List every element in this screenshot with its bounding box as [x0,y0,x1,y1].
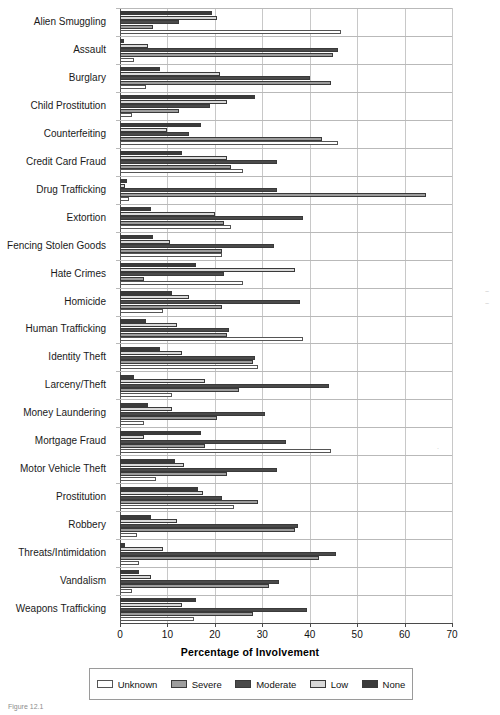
bar-severe [120,165,231,169]
bar-group [120,204,452,232]
category-label: Hate Crimes [50,268,106,279]
bar-low [120,519,177,523]
bar-low [120,16,217,20]
group-separator [116,120,452,121]
category-label: Weapons Trafficking [16,603,106,614]
legend-label: None [383,679,406,690]
bar-moderate [120,20,179,24]
group-separator [116,483,452,484]
x-tick-label: 20 [209,629,220,640]
bar-severe [120,81,331,85]
x-tick-mark [120,623,121,627]
x-axis-line [120,623,452,624]
bar-moderate [120,580,279,584]
bar-group [120,511,452,539]
group-separator [116,595,452,596]
x-tick-label: 60 [399,629,410,640]
bar-moderate [120,244,274,248]
bar-low [120,491,203,495]
bar-none [120,235,153,239]
bar-unknown [120,337,303,341]
group-separator [116,148,452,149]
bar-moderate [120,104,210,108]
category-label: Fencing Stolen Goods [7,240,106,251]
bar-moderate [120,216,303,220]
x-tick-label: 70 [446,629,457,640]
legend-item[interactable]: Unknown [97,679,158,690]
category-label: Motor Vehicle Theft [20,463,106,474]
category-label: Drug Trafficking [36,184,106,195]
category-label: Threats/Intimidation [18,547,106,558]
bar-low [120,603,182,607]
bar-group [120,595,452,623]
bar-low [120,463,184,467]
bar-moderate [120,468,277,472]
bar-none [120,263,196,267]
category-label: Homicide [64,296,106,307]
bar-severe [120,249,222,253]
category-label: Alien Smuggling [34,16,106,27]
bar-unknown [120,309,163,313]
bar-none [120,487,198,491]
bar-low [120,72,220,76]
bar-moderate [120,188,277,192]
category-label: Extortion [67,212,106,223]
category-label: Child Prostitution [30,100,106,111]
legend-label: Low [331,679,348,690]
bar-moderate [120,356,255,360]
group-separator [116,455,452,456]
group-separator [116,204,452,205]
category-label: Robbery [68,519,106,530]
x-tick-mark [262,623,263,627]
gridline-70 [452,8,453,623]
bar-low [120,212,215,216]
group-separator [116,539,452,540]
group-separator [116,316,452,317]
x-tick-label: 50 [352,629,363,640]
bar-group [120,64,452,92]
bar-low [120,351,182,355]
bar-none [120,291,172,295]
legend-item[interactable]: Low [310,679,348,690]
x-tick-mark [357,623,358,627]
category-label: Identity Theft [48,351,106,362]
bar-none [120,515,151,519]
x-tick-mark [452,623,453,627]
bar-group [120,232,452,260]
chart-figure: Alien SmugglingAssaultBurglaryChild Pros… [0,0,500,715]
bar-moderate [120,384,329,388]
bar-unknown [120,225,231,229]
edge-artifact-bottom: ~ [485,300,489,307]
group-separator [116,92,452,93]
group-separator [116,288,452,289]
bar-moderate [120,328,229,332]
category-label: Larceny/Theft [45,379,106,390]
bar-unknown [120,449,331,453]
bar-group [120,483,452,511]
bar-group [120,399,452,427]
category-label: Mortgage Fraud [35,435,106,446]
legend-item[interactable]: Severe [171,679,222,690]
bar-severe [120,333,227,337]
bar-severe [120,556,319,560]
plot-area: Alien SmugglingAssaultBurglaryChild Pros… [0,0,500,640]
bar-low [120,44,148,48]
category-label: Money Laundering [23,407,106,418]
legend-item[interactable]: Moderate [235,679,296,690]
bar-none [120,151,182,155]
bar-group [120,371,452,399]
bar-unknown [120,113,132,117]
bar-moderate [120,132,189,136]
bar-none [120,347,160,351]
bar-unknown [120,58,134,62]
legend-swatch-low [310,680,326,688]
bar-group [120,260,452,288]
legend-swatch-severe [171,680,187,688]
bar-severe [120,416,217,420]
bar-none [120,11,212,15]
group-separator [116,64,452,65]
category-label: Human Trafficking [26,323,106,334]
edge-artifact-mid: . [437,443,439,450]
bar-moderate [120,76,310,80]
legend-item[interactable]: None [362,679,406,690]
